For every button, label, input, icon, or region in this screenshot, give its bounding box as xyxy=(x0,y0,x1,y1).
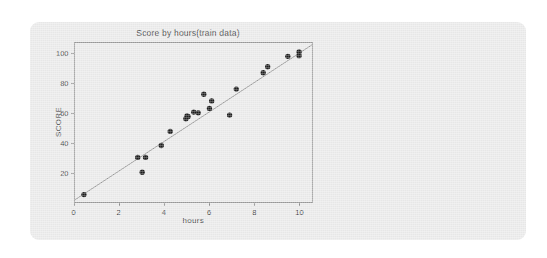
x-tick-label: 2 xyxy=(117,208,121,217)
x-tick-mark xyxy=(119,203,120,206)
data-point xyxy=(139,170,144,175)
data-point xyxy=(226,112,231,117)
data-point xyxy=(185,114,190,119)
x-tick-mark xyxy=(209,203,210,206)
x-tick-mark xyxy=(74,203,75,206)
data-point xyxy=(158,143,163,148)
x-tick-label: 10 xyxy=(295,208,303,217)
regression-line-path xyxy=(75,44,313,199)
y-tick-label: 60 xyxy=(38,108,69,117)
plot-canvas xyxy=(75,43,313,202)
data-point xyxy=(191,109,196,114)
data-point xyxy=(233,86,238,91)
data-point xyxy=(195,110,200,115)
x-tick-mark xyxy=(254,203,255,206)
data-point xyxy=(135,155,140,160)
y-tick-label: 80 xyxy=(38,78,69,87)
y-tick-label: 40 xyxy=(38,138,69,147)
x-tick-label: 4 xyxy=(162,208,166,217)
x-tick-mark xyxy=(299,203,300,206)
data-point xyxy=(206,106,211,111)
y-tick-label: 100 xyxy=(38,48,69,57)
x-tick-label: 0 xyxy=(71,208,75,217)
data-point xyxy=(81,192,86,197)
chart-title: Score by hours(train data) xyxy=(38,28,338,38)
data-point xyxy=(260,70,265,75)
regression-line xyxy=(75,44,313,199)
x-axis-title: hours xyxy=(74,216,314,225)
y-tick-label: 20 xyxy=(38,168,69,177)
data-point xyxy=(285,54,290,59)
data-point xyxy=(167,129,172,134)
x-tick-mark xyxy=(164,203,165,206)
data-point xyxy=(201,92,206,97)
data-point xyxy=(208,98,213,103)
scatter-chart: Score by hours(train data) SCORE hours 2… xyxy=(38,22,338,240)
figure-card: Score by hours(train data) SCORE hours 2… xyxy=(30,22,526,240)
plot-frame xyxy=(74,42,314,203)
data-point xyxy=(265,64,270,69)
data-point xyxy=(296,53,301,58)
x-tick-label: 6 xyxy=(207,208,211,217)
x-tick-label: 8 xyxy=(252,208,256,217)
data-point xyxy=(142,155,147,160)
